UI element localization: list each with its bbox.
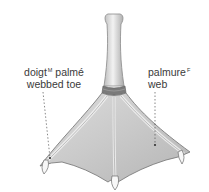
web <box>40 93 190 182</box>
ankle-band <box>102 86 126 95</box>
leader-line-toe <box>43 92 50 158</box>
webbed-foot-illustration <box>0 0 209 192</box>
label-webbed-toe: doigtM palmé webbed toe <box>9 64 99 90</box>
label-web: palmureF web <box>148 64 190 90</box>
leader-dot-toe <box>49 157 51 159</box>
label-web-en: web <box>148 78 190 90</box>
label-webbed-toe-fr: doigtM palmé <box>9 64 99 78</box>
label-web-fr: palmureF <box>148 64 190 78</box>
leg <box>104 14 124 86</box>
leader-dot-web <box>154 144 156 146</box>
label-webbed-toe-en: webbed toe <box>9 78 99 90</box>
